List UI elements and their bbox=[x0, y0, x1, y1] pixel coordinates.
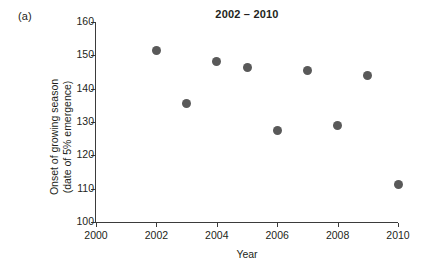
y-tick-label: 100 bbox=[54, 215, 94, 227]
x-tick bbox=[338, 223, 339, 227]
y-axis-label-line-2: (date of 5% emergence) bbox=[61, 79, 74, 195]
chart-title: 2002 – 2010 bbox=[96, 8, 398, 20]
data-point bbox=[243, 63, 252, 72]
y-tick-label: 140 bbox=[54, 82, 94, 94]
x-tick bbox=[398, 223, 399, 227]
data-point bbox=[152, 46, 161, 55]
x-tick-label: 2006 bbox=[255, 229, 299, 241]
data-point bbox=[363, 71, 372, 80]
x-tick-label: 2010 bbox=[376, 229, 420, 241]
y-tick-label: 120 bbox=[54, 148, 94, 160]
data-point bbox=[182, 99, 191, 108]
panel-label: (a) bbox=[18, 10, 32, 22]
y-axis-label: Onset of growing season (date of 5% emer… bbox=[46, 37, 76, 237]
data-point bbox=[394, 180, 403, 189]
data-point bbox=[212, 57, 221, 66]
x-axis-label: Year bbox=[96, 248, 398, 260]
data-point bbox=[273, 126, 282, 135]
x-tick bbox=[217, 223, 218, 227]
plot-area: 100110120130140150160 200020022004200620… bbox=[96, 22, 398, 222]
y-axis-label-line-1: Onset of growing season bbox=[48, 79, 61, 195]
data-point bbox=[333, 121, 342, 130]
data-point bbox=[303, 66, 312, 75]
x-tick bbox=[156, 223, 157, 227]
y-tick-label: 110 bbox=[54, 182, 94, 194]
y-axis-line bbox=[95, 22, 96, 223]
figure-panel-a: (a) 2002 – 2010 Onset of growing season … bbox=[0, 0, 426, 271]
x-tick-label: 2004 bbox=[195, 229, 239, 241]
x-tick-label: 2000 bbox=[74, 229, 118, 241]
y-tick-label: 160 bbox=[54, 15, 94, 27]
y-tick-label: 130 bbox=[54, 115, 94, 127]
y-tick-label: 150 bbox=[54, 48, 94, 60]
x-axis-line bbox=[95, 222, 398, 223]
x-tick bbox=[96, 223, 97, 227]
x-tick-label: 2002 bbox=[134, 229, 178, 241]
x-tick-label: 2008 bbox=[316, 229, 360, 241]
x-tick bbox=[277, 223, 278, 227]
